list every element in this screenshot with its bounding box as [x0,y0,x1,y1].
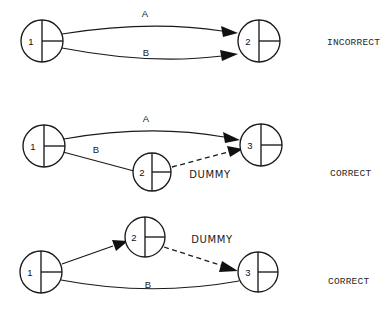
node-1[interactable]: 1 [20,251,62,293]
diagram-correct-1: A B DUMMY 1 2 [23,113,371,191]
node-2-label: 2 [245,36,250,47]
edge-b-label: B [143,47,150,58]
edge2-dummy-line [172,152,228,167]
node-3-label: 3 [247,140,252,151]
node-1-label: 1 [28,36,33,47]
edge3-b-label: B [145,279,152,290]
edge3-a-line [62,246,113,264]
node-2[interactable]: 2 [133,153,171,191]
diagram-canvas: A B 1 2 INCORRECT [0,0,392,314]
diagram-correct-2: DUMMY B 2 1 3 [20,217,369,293]
verdict-correct-1: CORRECT [330,168,371,179]
node-1-label: 1 [30,141,35,152]
verdict-incorrect: INCORRECT [327,37,380,48]
node-1[interactable]: 1 [21,20,63,62]
node-1-label: 1 [27,267,32,278]
node-1[interactable]: 1 [23,125,65,167]
node-3[interactable]: 3 [238,252,278,292]
edge3-dummy-arrowhead [219,261,238,272]
edge2-a-arrowhead [223,132,240,143]
node-3-label: 3 [245,267,250,278]
verdict-correct-2: CORRECT [328,276,369,287]
node-2-label: 2 [131,232,136,243]
node-2[interactable]: 2 [125,217,165,257]
network-diagram-figure: A B 1 2 INCORRECT [0,0,392,314]
edge2-dummy-label: DUMMY [189,169,231,180]
edge2-a-label: A [143,113,150,124]
edge3-dummy-label: DUMMY [191,234,233,245]
edge-a-arrowhead [221,26,238,37]
edge-b-arrowhead [220,50,238,61]
node-2-label: 2 [139,167,144,178]
edge3-dummy-line [164,247,223,266]
edge-a-line [62,26,222,34]
node-2[interactable]: 2 [238,20,280,62]
edge2-b-label: B [93,144,100,155]
node-3[interactable]: 3 [240,124,282,166]
edge2-a-line [64,131,224,139]
edge-a-label: A [142,8,149,19]
diagram-incorrect: A B 1 2 INCORRECT [21,8,380,62]
